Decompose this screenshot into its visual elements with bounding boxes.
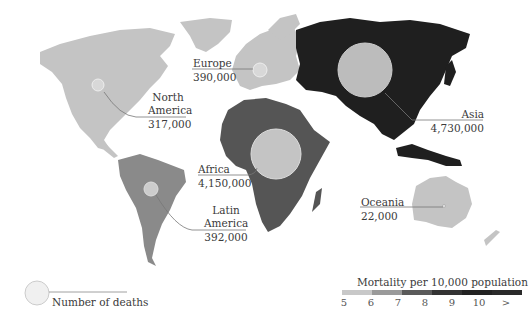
madagascar-shape — [312, 188, 322, 212]
asia-circle — [338, 43, 392, 97]
deaths-legend-label: Number of deaths — [52, 296, 148, 308]
tick-10: 10 — [469, 297, 489, 308]
asia-deaths: 4,730,000 — [430, 122, 484, 135]
latin-america-deaths: 392,000 — [204, 231, 248, 244]
north-america-name-line1: North — [148, 91, 188, 104]
europe-circle — [253, 63, 267, 77]
north-america-label: North America 317,000 — [148, 91, 188, 131]
europe-deaths: 390,000 — [193, 71, 236, 84]
deaths-legend-circle — [25, 281, 49, 305]
latin-america-label: Latin America 392,000 — [204, 204, 248, 244]
scale-band-9-10 — [462, 290, 492, 295]
scale-band-7-8 — [402, 290, 432, 295]
mortality-legend-title: Mortality per 10,000 population — [357, 276, 528, 288]
africa-name: Africa — [198, 163, 251, 176]
oceania-label: Oceania 22,000 — [361, 196, 404, 223]
africa-label: Africa 4,150,000 — [198, 163, 251, 190]
latin-america-name-line2: America — [204, 217, 248, 230]
oceania-name: Oceania — [361, 196, 404, 209]
europe-name: Europe — [193, 57, 236, 70]
tick-9: 9 — [442, 297, 462, 308]
africa-deaths: 4,150,000 — [198, 177, 251, 190]
latin-america-name-line1: Latin — [204, 204, 248, 217]
north-america-shape — [40, 28, 175, 152]
southeast-asia-shape — [396, 144, 462, 166]
tick-5: 5 — [334, 297, 354, 308]
scale-band-5-6 — [342, 290, 372, 295]
australia-shape — [412, 176, 472, 228]
north-america-circle — [92, 79, 104, 91]
greenland-shape — [180, 18, 232, 52]
north-america-deaths: 317,000 — [148, 118, 188, 131]
mortality-scale-ticks: 5 6 7 8 9 10 > — [336, 297, 528, 311]
south-america-shape — [118, 154, 186, 266]
tick-7: 7 — [388, 297, 408, 308]
scale-band-6-7 — [372, 290, 402, 295]
north-america-name-line2: America — [148, 104, 188, 117]
asia-label: Asia 4,730,000 — [430, 108, 484, 135]
asia-name: Asia — [430, 108, 484, 121]
world-map — [0, 0, 529, 323]
latin-america-circle — [144, 182, 158, 196]
mortality-color-scale — [342, 290, 522, 295]
tick-8: 8 — [415, 297, 435, 308]
africa-circle — [251, 129, 301, 179]
scale-band-8-9 — [432, 290, 462, 295]
europe-label: Europe 390,000 — [193, 57, 236, 84]
tick-greater: > — [496, 297, 516, 308]
scale-band-gt-10 — [492, 290, 522, 295]
oceania-deaths: 22,000 — [361, 210, 404, 223]
new-zealand-shape — [484, 230, 500, 246]
tick-6: 6 — [361, 297, 381, 308]
